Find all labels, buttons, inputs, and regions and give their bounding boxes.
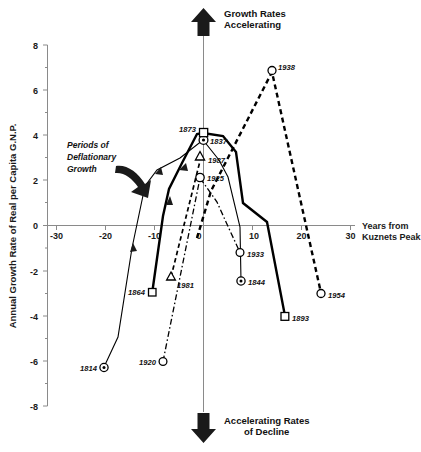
- marker-1893: [281, 313, 289, 321]
- direction-arrow: [130, 243, 137, 252]
- point-label-1954: 1954: [328, 291, 346, 300]
- marker-1837-dot: [202, 138, 205, 141]
- annotation-line3: Growth: [67, 164, 97, 174]
- y-tick-label: -8: [30, 402, 38, 412]
- point-label-1873: 1873: [179, 125, 197, 134]
- up-arrow-icon: [191, 8, 216, 36]
- y-tick-label: -2: [30, 267, 38, 277]
- down-arrow-icon: [191, 413, 216, 443]
- y-tick-label: -6: [30, 357, 38, 367]
- x-tick-label: -20: [99, 231, 112, 241]
- annotation-line1: Accelerating Rates: [224, 415, 310, 426]
- marker-1933: [236, 249, 244, 257]
- point-label-1893: 1893: [292, 314, 310, 323]
- y-tick-label: 6: [33, 86, 38, 96]
- point-label-1938: 1938: [278, 63, 296, 72]
- annotation-accelerating-decline: Accelerating Rates of Decline: [191, 413, 310, 443]
- point-label-1814: 1814: [80, 364, 98, 373]
- point-label-1844: 1844: [248, 278, 266, 287]
- y-tick-label: 0: [33, 221, 38, 231]
- marker-1981: [167, 272, 176, 280]
- y-tick-labels: 8 6 4 2 0 -2 -4 -6 -8: [30, 41, 38, 412]
- point-label-1920: 1920: [139, 358, 157, 367]
- y-tick-label: 4: [33, 131, 38, 141]
- point-label-1933: 1933: [247, 250, 265, 259]
- annotation-growth-accelerating: Growth Rates Accelerating: [191, 8, 286, 36]
- point-label-1987: 1987: [208, 156, 226, 165]
- curved-arrow-icon: [115, 166, 151, 198]
- annotation-line1: Periods of: [67, 140, 110, 150]
- series-1981-1987: [167, 152, 205, 281]
- x-tick-label: 10: [249, 231, 259, 241]
- x-axis-title-line1: Years from: [362, 221, 409, 231]
- marker-1814-dot: [103, 366, 106, 369]
- annotation-deflationary-growth: Periods of Deflationary Growth: [67, 140, 151, 198]
- marker-1873: [200, 129, 208, 137]
- y-tick-label: -4: [30, 312, 38, 322]
- marker-1938: [268, 67, 276, 75]
- marker-1954: [317, 290, 325, 298]
- x-axis-title-line2: Kuznets Peak: [362, 232, 421, 242]
- annotation-line2: Accelerating: [224, 19, 281, 30]
- point-label-1864: 1864: [128, 288, 146, 297]
- x-axis-title: Years from Kuznets Peak: [362, 221, 421, 242]
- x-tick-label: 20: [296, 231, 306, 241]
- y-tick-label: 2: [33, 176, 38, 186]
- marker-1864: [149, 289, 157, 297]
- series-line-1925: [163, 178, 240, 362]
- point-label-1837: 1837: [210, 137, 228, 146]
- chart-figure: 8 6 4 2 0 -2 -4 -6 -8 -30 -20 -10 0 10 2…: [0, 0, 421, 452]
- marker-1844-dot: [240, 280, 243, 283]
- point-label-1925: 1925: [207, 174, 225, 183]
- annotation-line2: Deflationary: [67, 152, 117, 162]
- chart-svg: 8 6 4 2 0 -2 -4 -6 -8 -30 -20 -10 0 10 2…: [0, 0, 421, 452]
- axes-group: [43, 36, 355, 412]
- x-tick-label: 30: [345, 231, 355, 241]
- annotation-line1: Growth Rates: [224, 8, 286, 19]
- point-label-1981: 1981: [177, 281, 194, 290]
- y-axis-title: Annual Growth Rate of Real per Capita G.…: [7, 124, 18, 329]
- y-tick-label: 8: [33, 41, 38, 51]
- x-tick-label: -30: [50, 231, 63, 241]
- marker-1920: [159, 358, 167, 366]
- annotation-line2: of Decline: [244, 426, 289, 437]
- x-tick-labels: -30 -20 -10 0 10 20 30: [50, 231, 356, 241]
